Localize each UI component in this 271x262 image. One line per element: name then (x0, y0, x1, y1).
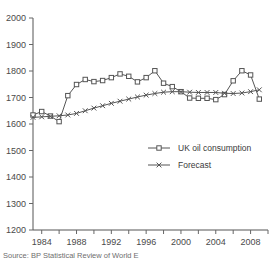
y-tick-label: 1700 (6, 93, 26, 103)
data-point-marker (100, 78, 104, 82)
data-point-marker (74, 82, 78, 86)
legend-marker-square (157, 146, 161, 150)
data-point-marker (144, 75, 148, 79)
data-point-marker (109, 75, 113, 79)
data-point-marker (257, 97, 261, 101)
data-point-marker (196, 96, 200, 100)
y-tick-label: 1300 (6, 199, 26, 209)
data-point-marker (153, 69, 157, 73)
data-point-marker (187, 96, 191, 100)
legend-label-1: Forecast (178, 160, 212, 170)
x-tick-label: 1984 (32, 237, 52, 247)
data-point-marker (40, 109, 44, 113)
data-point-marker (57, 119, 61, 123)
data-point-marker (161, 81, 165, 85)
data-point-marker (118, 72, 122, 76)
line-chart: 1200130014001500160017001800190020001984… (0, 0, 271, 248)
y-tick-label: 2000 (6, 13, 26, 23)
x-tick-label: 2000 (171, 237, 191, 247)
data-point-marker (248, 73, 252, 77)
data-point-marker (205, 96, 209, 100)
y-tick-label: 1400 (6, 172, 26, 182)
data-point-marker (240, 69, 244, 73)
data-point-marker (66, 93, 70, 97)
data-point-marker (214, 97, 218, 101)
y-tick-label: 1500 (6, 146, 26, 156)
y-tick-label: 1900 (6, 40, 26, 50)
x-tick-label: 1996 (136, 237, 156, 247)
data-point-marker (83, 77, 87, 81)
x-tick-label: 1988 (67, 237, 87, 247)
data-point-marker (135, 80, 139, 84)
legend-label-0: UK oil consumption (178, 143, 252, 153)
x-tick-label: 2008 (241, 237, 261, 247)
y-tick-label: 1600 (6, 119, 26, 129)
data-point-marker (127, 74, 131, 78)
chart-axes (33, 18, 268, 230)
x-tick-label: 1992 (101, 237, 121, 247)
x-tick-label: 2004 (206, 237, 226, 247)
data-point-marker (92, 79, 96, 83)
data-point-marker (231, 79, 235, 83)
source-note: Source: BP Statistical Review of World E (3, 250, 271, 261)
y-tick-label: 1200 (6, 225, 26, 235)
chart-container: 1200130014001500160017001800190020001984… (0, 0, 271, 262)
y-tick-label: 1800 (6, 66, 26, 76)
data-point-marker (170, 84, 174, 88)
